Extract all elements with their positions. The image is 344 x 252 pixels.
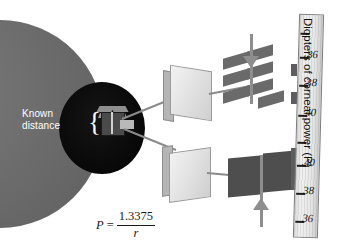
known-distance-line-1: Known <box>22 108 84 120</box>
instrument-split-line <box>111 112 113 134</box>
known-distance-label: Known distance <box>22 108 84 131</box>
mire-block-u5 <box>223 85 249 103</box>
up-arrow-head <box>253 198 269 210</box>
formula-fraction: 1.3375 r <box>117 210 155 241</box>
ruler-band-upper <box>291 64 297 76</box>
formula-corneal-power: P = 1.3375 r <box>96 210 155 241</box>
brace-icon: { <box>88 107 99 137</box>
instrument-highlight <box>120 120 134 129</box>
upper-mirror-plate <box>170 65 212 122</box>
down-arrow-shaft <box>250 34 253 104</box>
axis-title: Diopters of corneal power (P) <box>298 18 318 232</box>
formula-numerator: 1.3375 <box>117 210 155 226</box>
down-arrow-head <box>243 56 259 68</box>
mire-block-u7 <box>258 90 284 108</box>
mire-block-l1 <box>228 156 260 198</box>
formula-lhs: P <box>96 218 104 233</box>
figure-canvas: Known distance { 36 38 40 <box>0 0 344 252</box>
lower-mirror-plate <box>169 147 211 203</box>
up-arrow-shaft <box>260 155 263 227</box>
known-distance-line-2: distance <box>22 120 84 132</box>
formula-equals: = <box>107 218 114 233</box>
mire-block-u3 <box>223 68 249 86</box>
formula-denominator: r <box>133 226 138 241</box>
